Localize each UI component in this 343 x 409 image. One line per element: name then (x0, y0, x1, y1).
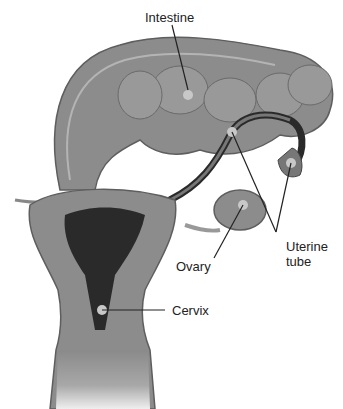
anatomy-illustration (0, 0, 343, 409)
uterus-shape (29, 189, 176, 409)
cervix-label: Cervix (172, 303, 209, 318)
uterine-tube-label-line2: tube (286, 254, 311, 269)
ovary-label: Ovary (176, 259, 211, 274)
uterine-tube-label-line1: Uterine (286, 239, 328, 254)
intestine-marker (183, 90, 193, 100)
intestine-label: Intestine (145, 10, 194, 25)
